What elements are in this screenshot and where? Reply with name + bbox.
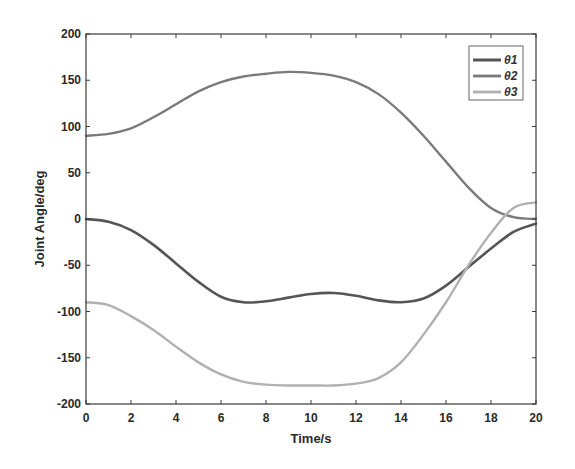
x-tick-label: 18: [484, 411, 498, 425]
y-tick-label: -150: [57, 351, 81, 365]
series-line-theta2: [86, 72, 536, 219]
joint-angle-chart: 02468101214161820 -200-150-100-500501001…: [0, 0, 575, 469]
x-tick-label: 20: [529, 411, 543, 425]
y-axis-label: Joint Angle/deg: [32, 170, 47, 267]
plot-lines: [86, 72, 536, 386]
y-tick-label: 150: [61, 73, 81, 87]
legend-label-theta1: θ1: [504, 53, 518, 67]
x-axis-label: Time/s: [291, 431, 332, 446]
x-tick-label: 0: [83, 411, 90, 425]
y-tick-label: 50: [68, 166, 82, 180]
plot-area-frame: [86, 34, 536, 404]
y-axis-ticks: -200-150-100-50050100150200: [57, 27, 536, 411]
x-tick-label: 2: [128, 411, 135, 425]
legend-label-theta3: θ3: [504, 85, 518, 99]
legend-label-theta2: θ2: [504, 69, 518, 83]
x-tick-label: 4: [173, 411, 180, 425]
y-tick-label: -100: [57, 305, 81, 319]
x-tick-label: 14: [394, 411, 408, 425]
series-line-theta1: [86, 219, 536, 303]
legend: θ1θ2θ3: [469, 46, 523, 100]
y-tick-label: 0: [74, 212, 81, 226]
x-tick-label: 12: [349, 411, 363, 425]
y-tick-label: -50: [64, 258, 82, 272]
x-tick-label: 16: [439, 411, 453, 425]
x-tick-label: 6: [218, 411, 225, 425]
x-tick-label: 8: [263, 411, 270, 425]
y-tick-label: -200: [57, 397, 81, 411]
x-tick-label: 10: [304, 411, 318, 425]
y-tick-label: 100: [61, 120, 81, 134]
y-tick-label: 200: [61, 27, 81, 41]
